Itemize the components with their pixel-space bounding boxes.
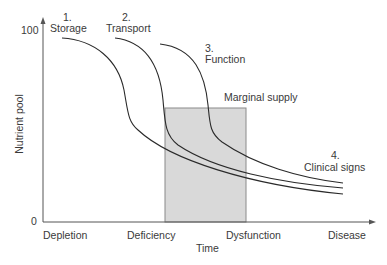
- x-axis-arrow-icon: [369, 220, 376, 225]
- nutrient-depletion-diagram: [0, 0, 387, 265]
- y-axis-arrow-icon: [41, 17, 46, 24]
- clinical-signs-label: Clinical signs: [304, 161, 365, 173]
- stage-depletion: Depletion: [43, 229, 87, 241]
- x-axis-title: Time: [196, 242, 219, 254]
- stage-dysfunction: Dysfunction: [226, 229, 281, 241]
- y-min-label: 0: [31, 215, 37, 227]
- clinical-signs-number: 4.: [331, 149, 340, 161]
- y-axis-title: Nutrient pool: [13, 89, 25, 159]
- stage-disease: Disease: [328, 229, 366, 241]
- curve3-label: Function: [205, 53, 245, 65]
- marginal-supply-label: Marginal supply: [224, 91, 298, 103]
- curve2-label: Transport: [106, 22, 151, 34]
- y-max-label: 100: [21, 24, 39, 36]
- curve1-label: Storage: [50, 22, 87, 34]
- stage-deficiency: Deficiency: [127, 229, 175, 241]
- marginal-supply-region: [165, 108, 246, 222]
